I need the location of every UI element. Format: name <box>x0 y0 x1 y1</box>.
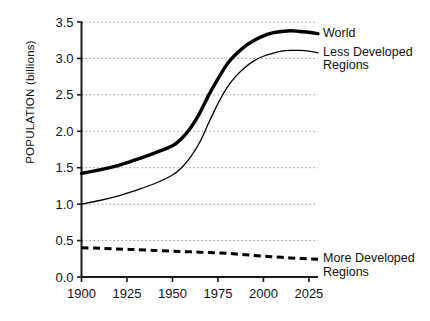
y-tick-label: 3.5 <box>40 16 74 29</box>
axis-ticks <box>77 22 309 282</box>
series-label-more-developed: More Developed Regions <box>323 252 415 279</box>
population-line-chart: POPULATION (billions) 0.00.51.01.52.02.5… <box>0 0 430 321</box>
series-line-less-developed <box>82 50 319 204</box>
y-tick-label: 2.5 <box>40 88 74 101</box>
y-tick-label: 0.0 <box>40 271 74 284</box>
y-tick-label: 3.0 <box>40 52 74 65</box>
y-tick-label: 2.0 <box>40 125 74 138</box>
series-line-world <box>82 31 319 174</box>
gridlines <box>82 22 319 241</box>
series-label-less-developed: Less Developed Regions <box>323 46 413 73</box>
axis-lines <box>82 22 319 277</box>
y-tick-label: 0.5 <box>40 234 74 247</box>
y-tick-label: 1.0 <box>40 198 74 211</box>
data-series <box>82 31 319 260</box>
y-tick-label: 1.5 <box>40 161 74 174</box>
x-tick-label: 2025 <box>281 287 337 300</box>
series-line-more-developed <box>82 248 319 260</box>
series-label-world: World <box>323 27 355 41</box>
